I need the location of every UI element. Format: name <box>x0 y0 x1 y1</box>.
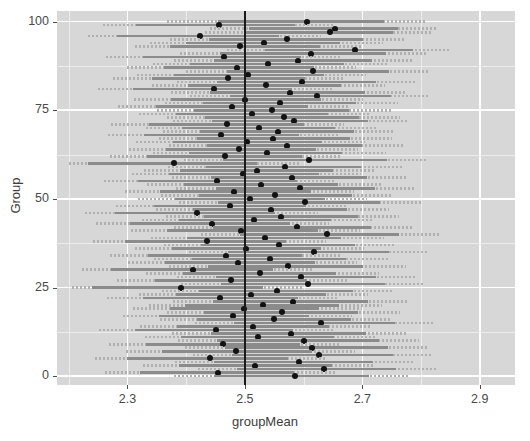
interval-bar <box>265 49 412 52</box>
interval-bar <box>227 70 389 73</box>
x-axis-tick <box>362 385 363 389</box>
interval-bar <box>232 354 393 357</box>
y-axis-tick <box>53 22 57 23</box>
x-axis-tick-label: 2.7 <box>332 392 392 406</box>
interval-bar <box>214 59 372 62</box>
interval-bar <box>212 120 368 123</box>
x-axis-tick <box>480 385 481 389</box>
interval-bar <box>216 187 376 190</box>
y-axis-tick-label: 0 <box>15 368 49 382</box>
interval-bar <box>217 339 378 342</box>
y-axis-tick-label: 100 <box>15 14 49 28</box>
interval-bar <box>217 81 377 84</box>
interval-bar <box>230 95 391 98</box>
interval-bar <box>92 286 262 289</box>
x-axis-title: groupMean <box>0 414 530 429</box>
interval-bar <box>237 368 397 371</box>
y-axis-tick <box>53 376 57 377</box>
reference-line-vertical <box>244 11 246 385</box>
x-axis-tick-label: 2.9 <box>450 392 510 406</box>
interval-bar <box>223 159 387 162</box>
x-axis-tick <box>245 385 246 389</box>
interval-bar <box>221 283 384 286</box>
plot-panel <box>57 11 515 385</box>
interval-bar <box>245 31 393 34</box>
y-axis-tick <box>53 288 57 289</box>
data-point <box>292 373 298 379</box>
interval-bar <box>228 251 389 254</box>
data-point <box>327 29 333 35</box>
interval-bar <box>225 346 388 349</box>
y-axis-tick-label: 75 <box>15 102 49 116</box>
y-axis-tick <box>53 199 57 200</box>
interval-bar <box>216 276 376 279</box>
y-axis-title: Group <box>8 151 23 241</box>
interval-bar <box>214 361 373 364</box>
interval-bar <box>213 226 370 229</box>
x-axis-tick-label: 2.3 <box>97 392 157 406</box>
y-axis-tick-label: 25 <box>15 280 49 294</box>
x-axis-tick-label: 2.5 <box>215 392 275 406</box>
interval-bar <box>234 322 395 325</box>
y-axis-tick <box>53 110 57 111</box>
chart-root: 2.32.52.72.9 0255075100 groupMean Group <box>0 0 530 441</box>
x-axis-tick <box>127 385 128 389</box>
interval-bar <box>249 27 398 30</box>
interval-bar <box>218 201 380 204</box>
data-point <box>306 157 312 163</box>
